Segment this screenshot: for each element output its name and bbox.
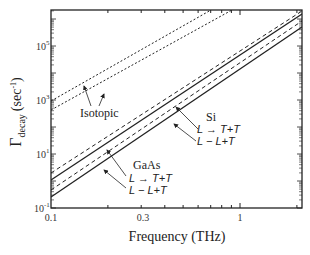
svg-text:103: 103 xyxy=(36,93,50,106)
arrow-icon xyxy=(174,124,196,141)
svg-text:Γdecay(sec-1): Γdecay(sec-1) xyxy=(7,77,27,147)
x-tick-label: 1 xyxy=(238,212,243,223)
series-isotopic-lower xyxy=(51,10,232,110)
arrow-icon xyxy=(99,94,104,106)
series-si-l-l-t xyxy=(51,14,302,180)
svg-text:L − L+T: L − L+T xyxy=(129,184,168,196)
annotation-si: Si L → T+T L − L+T xyxy=(174,107,241,147)
y-tick-label: 103 xyxy=(36,93,50,106)
svg-text:101: 101 xyxy=(36,147,50,160)
arrow-icon xyxy=(176,107,198,129)
y-tick-label: 105 xyxy=(36,39,50,52)
x-tick-label: 0.1 xyxy=(45,212,58,223)
arrow-icon xyxy=(104,170,126,188)
svg-text:GaAs: GaAs xyxy=(133,158,161,172)
y-tick-label: 101 xyxy=(36,147,50,160)
y-axis-title: Γdecay(sec-1) xyxy=(7,77,27,147)
svg-text:105: 105 xyxy=(36,39,50,52)
svg-text:L → T+T: L → T+T xyxy=(129,172,173,184)
x-axis-title: Frequency (THz) xyxy=(129,229,226,245)
arrow-icon xyxy=(107,150,126,176)
chart: 0.1 0.3 1 10-1 101 103 105 Frequency (TH… xyxy=(0,0,310,255)
series-si-l-t-t xyxy=(51,11,302,173)
svg-text:Isotopic: Isotopic xyxy=(80,106,119,120)
annotation-isotopic: Isotopic xyxy=(80,86,119,120)
svg-text:L → T+T: L → T+T xyxy=(197,123,241,135)
svg-text:Si: Si xyxy=(206,110,217,124)
svg-text:L − L+T: L − L+T xyxy=(197,135,236,147)
x-tick-label: 0.3 xyxy=(137,212,150,223)
annotation-gaas: GaAs L → T+T L − L+T xyxy=(104,150,173,196)
series-isotopic-upper xyxy=(51,10,211,101)
